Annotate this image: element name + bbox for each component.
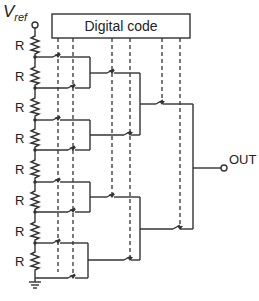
vref-label: Vref (3, 2, 27, 23)
vref-terminal (32, 22, 38, 28)
ground-symbol (29, 282, 41, 288)
out-terminal (221, 165, 227, 171)
resistor-label: R (15, 38, 24, 53)
resistor-label: R (15, 100, 24, 115)
circuit-diagram (0, 0, 259, 301)
digital-code-label: Digital code (52, 14, 190, 38)
resistor-label: R (15, 254, 24, 269)
out-label: OUT (229, 152, 256, 167)
level2-switches (88, 69, 140, 260)
resistor-label: R (15, 131, 24, 146)
resistor-label: R (15, 193, 24, 208)
control-arrowheads (55, 54, 183, 279)
resistor-label: R (15, 162, 24, 177)
resistor-label: R (15, 224, 24, 239)
level1-switches (35, 53, 90, 278)
resistor-label: R (15, 69, 24, 84)
